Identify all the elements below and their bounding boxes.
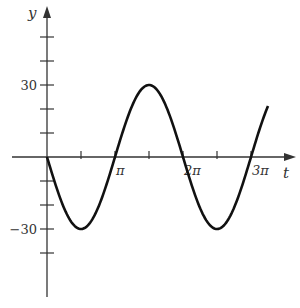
x-axis-arrow <box>284 153 296 161</box>
x-tick-label: π <box>115 163 125 178</box>
y-tick-label: −30 <box>10 222 37 237</box>
y-tick-label: 30 <box>20 78 37 93</box>
y-axis-label: y <box>27 4 37 22</box>
sine-chart: π2π3π30−30 y t <box>0 0 300 308</box>
y-axis-arrow <box>43 6 51 18</box>
x-axis-label: t <box>283 164 290 182</box>
x-tick-label: 3π <box>252 163 269 178</box>
